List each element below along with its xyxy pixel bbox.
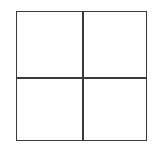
vertical-divider [82,12,84,140]
two-by-two-grid [16,11,147,141]
grid-cell-bottom-right [83,78,146,140]
grid-cell-top-left [17,12,82,77]
grid-cell-top-right [83,12,146,77]
horizontal-divider [17,77,146,79]
grid-cell-bottom-left [17,78,82,140]
